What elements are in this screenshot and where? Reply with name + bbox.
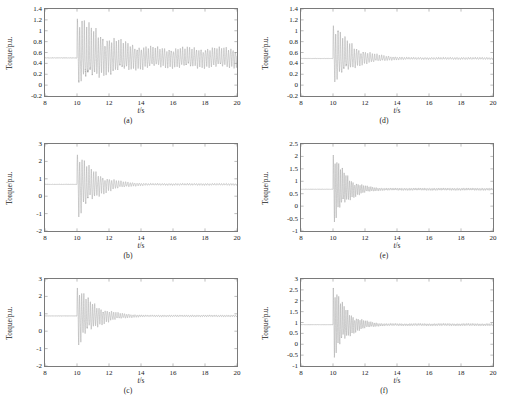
x-axis-label-d: t/s xyxy=(300,106,494,115)
waveform-trace-f xyxy=(301,288,493,358)
waveform-trace-a xyxy=(45,19,237,83)
y-axis-label-b: Torque/p.u. xyxy=(4,143,16,232)
y-tick-label-e: 1 xyxy=(295,177,299,185)
panel-c: -2-101238101214161820Torque/p.u.t/s(c) xyxy=(0,270,256,416)
waveform-trace-b xyxy=(45,155,237,217)
waveform-trace-c xyxy=(45,288,237,345)
y-tick-label-a: -0.2 xyxy=(31,92,42,100)
y-tick-label-f: 0.5 xyxy=(289,329,298,337)
y-tick-label-d: 1.2 xyxy=(289,16,298,24)
plot-area-d xyxy=(300,8,494,97)
y-tick-label-f: 2 xyxy=(295,297,299,305)
y-axis-label-a: Torque/p.u. xyxy=(4,8,16,97)
panel-caption-e: (e) xyxy=(256,251,512,260)
y-tick-label-c: 1 xyxy=(39,310,43,318)
y-tick-label-f: 2.5 xyxy=(289,286,298,294)
y-tick-label-b: 1 xyxy=(39,175,43,183)
panel-caption-b: (b) xyxy=(0,251,256,260)
y-tick-label-e: 2.5 xyxy=(289,140,298,148)
y-tick-label-e: 0 xyxy=(295,202,299,210)
panel-caption-c: (c) xyxy=(0,386,256,395)
panel-caption-f: (f) xyxy=(256,386,512,395)
y-tick-label-c: -1 xyxy=(36,345,42,353)
x-axis-label-c: t/s xyxy=(44,376,238,385)
y-tick-label-d: 0 xyxy=(295,81,299,89)
y-axis-label-d: Torque/p.u. xyxy=(260,8,272,97)
y-tick-label-e: -0.5 xyxy=(287,215,298,223)
plot-area-f xyxy=(300,278,494,367)
y-tick-label-f: 1.5 xyxy=(289,308,298,316)
y-tick-label-f: 3 xyxy=(295,275,299,283)
y-tick-label-c: -2 xyxy=(36,362,42,370)
y-tick-label-b: 0 xyxy=(39,192,43,200)
y-tick-label-d: 0.2 xyxy=(289,70,298,78)
y-tick-label-a: 0 xyxy=(39,81,43,89)
panel-a: -0.200.20.40.60.811.21.48101214161820Tor… xyxy=(0,0,256,135)
x-axis-label-e: t/s xyxy=(300,241,494,250)
y-tick-label-e: 0.5 xyxy=(289,190,298,198)
y-tick-label-a: 0.4 xyxy=(33,59,42,67)
y-tick-label-f: -0.5 xyxy=(287,351,298,359)
y-tick-label-f: -1 xyxy=(292,362,298,370)
y-tick-label-e: -1 xyxy=(292,227,298,235)
x-axis-label-a: t/s xyxy=(44,106,238,115)
y-tick-label-c: 2 xyxy=(39,292,43,300)
y-tick-label-a: 0.6 xyxy=(33,49,42,57)
y-tick-label-b: 3 xyxy=(39,140,43,148)
y-tick-label-d: 0.6 xyxy=(289,49,298,57)
plot-area-b xyxy=(44,143,238,232)
panel-b: -2-101238101214161820Torque/p.u.t/s(b) xyxy=(0,135,256,270)
panel-d: -0.200.20.40.60.811.21.48101214161820Tor… xyxy=(256,0,512,135)
x-axis-label-b: t/s xyxy=(44,241,238,250)
y-axis-label-f: Torque/p.u. xyxy=(260,278,272,367)
y-tick-label-a: 0.2 xyxy=(33,70,42,78)
y-tick-label-b: -2 xyxy=(36,227,42,235)
y-tick-label-d: -0.2 xyxy=(287,92,298,100)
y-axis-label-c: Torque/p.u. xyxy=(4,278,16,367)
y-tick-label-b: 2 xyxy=(39,157,43,165)
y-tick-label-b: -1 xyxy=(36,210,42,218)
y-tick-label-d: 1.4 xyxy=(289,5,298,13)
y-tick-label-f: 1 xyxy=(295,319,299,327)
plot-area-c xyxy=(44,278,238,367)
y-tick-label-a: 1.2 xyxy=(33,16,42,24)
y-tick-label-d: 0.8 xyxy=(289,38,298,46)
y-tick-label-f: 0 xyxy=(295,340,299,348)
y-axis-label-e: Torque/p.u. xyxy=(260,143,272,232)
waveform-trace-e xyxy=(301,155,493,222)
panel-caption-a: (a) xyxy=(0,116,256,125)
y-tick-label-a: 0.8 xyxy=(33,38,42,46)
y-tick-label-d: 0.4 xyxy=(289,59,298,67)
y-tick-label-d: 1 xyxy=(295,27,299,35)
panel-e: -1-0.500.511.522.58101214161820Torque/p.… xyxy=(256,135,512,270)
y-tick-label-c: 3 xyxy=(39,275,43,283)
y-tick-label-a: 1 xyxy=(39,27,43,35)
waveform-trace-d xyxy=(301,26,493,82)
y-tick-label-e: 2 xyxy=(295,152,299,160)
panel-f: -1-0.500.511.522.538101214161820Torque/p… xyxy=(256,270,512,416)
plot-area-e xyxy=(300,143,494,232)
panel-caption-d: (d) xyxy=(256,116,512,125)
figure-grid: -0.200.20.40.60.811.21.48101214161820Tor… xyxy=(0,0,512,416)
plot-area-a xyxy=(44,8,238,97)
y-tick-label-c: 0 xyxy=(39,327,43,335)
y-tick-label-e: 1.5 xyxy=(289,165,298,173)
x-axis-label-f: t/s xyxy=(300,376,494,385)
y-tick-label-a: 1.4 xyxy=(33,5,42,13)
